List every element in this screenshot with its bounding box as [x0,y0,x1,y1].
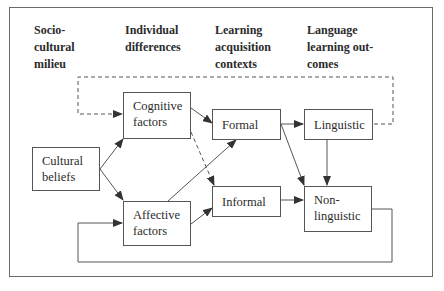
node-non-linguistic: Non- linguistic [304,186,372,232]
node-cultural-beliefs: Cultural beliefs [32,147,100,191]
node-linguistic: Linguistic [304,109,373,140]
arrow-affective-to-informal [191,208,212,224]
node-informal: Informal [212,186,281,217]
arrow-cultural-to-affective [100,169,123,200]
arrow-cognitive-to-formal [191,108,212,123]
node-cognitive-factors: Cognitive factors [123,92,191,139]
node-formal: Formal [212,109,281,140]
arrow-formal-to-nonlinguistic [281,124,304,185]
node-affective-factors: Affective factors [123,201,191,246]
connector-arrows [0,0,444,291]
arrow-cultural-to-cognitive [100,139,123,169]
